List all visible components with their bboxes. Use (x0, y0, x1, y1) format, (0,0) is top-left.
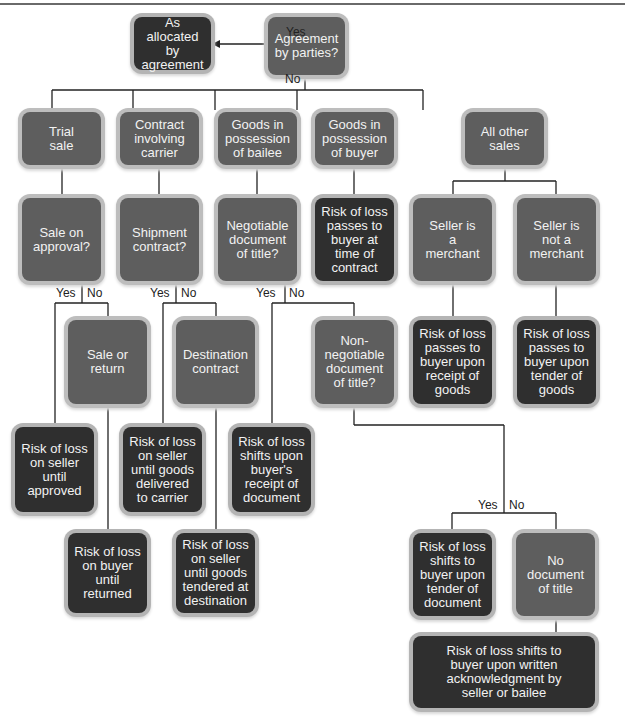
node-sale-on-approval: Sale on approval? (22, 198, 101, 281)
label-no-agreement: No (285, 72, 300, 86)
node-receipt-of-goods: Risk of loss passes to buyer upon receip… (413, 320, 492, 404)
label-no: No (509, 498, 524, 512)
node-seller-not-merchant: Seller is not a merchant (517, 198, 596, 281)
node-as-allocated: As allocated by agreement (134, 17, 211, 70)
label-yes: Yes (150, 286, 170, 300)
node-seller-until-carrier: Risk of loss on seller until goods deliv… (123, 427, 202, 512)
label-yes: Yes (478, 498, 498, 512)
node-seller-until-approved: Risk of loss on seller until approved (15, 427, 94, 512)
node-tender-of-goods: Risk of loss passes to buyer upon tender… (517, 320, 596, 404)
node-written-acknowledgment: Risk of loss shifts to buyer upon writte… (413, 636, 595, 708)
node-negotiable-document: Negotiable document of title? (218, 198, 297, 281)
label-no: No (289, 286, 304, 300)
node-goods-bailee: Goods in possession of bailee (218, 112, 297, 165)
node-buyer-until-returned: Risk of loss on buyer until returned (68, 533, 147, 613)
node-destination-contract: Destination contract (176, 320, 255, 404)
label-yes-agreement: Yes (286, 25, 306, 39)
node-seller-merchant: Seller is a merchant (413, 198, 492, 281)
label-no: No (87, 286, 102, 300)
node-sale-or-return: Sale or return (68, 320, 147, 404)
label-no: No (181, 286, 196, 300)
node-agreement-by-parties: Agreement by parties? (268, 17, 345, 75)
node-buyer-time-of-contract: Risk of loss passes to buyer at time of … (315, 198, 394, 281)
node-goods-buyer: Goods in possession of buyer (315, 112, 394, 165)
label-yes: Yes (256, 286, 276, 300)
node-all-other-sales: All other sales (465, 112, 544, 165)
label-yes: Yes (56, 286, 76, 300)
node-tender-of-document: Risk of loss shifts to buyer upon tender… (413, 533, 492, 616)
node-buyer-receipt-document: Risk of loss shifts upon buyer's receipt… (232, 427, 311, 512)
node-contract-carrier: Contract involving carrier (120, 112, 199, 165)
node-seller-until-destination: Risk of loss on seller until goods tende… (176, 533, 255, 613)
node-trial-sale: Trial sale (22, 112, 101, 165)
node-no-document: No document of title (516, 533, 595, 616)
node-non-negotiable: Non- negotiable document of title? (315, 320, 394, 404)
node-shipment-contract: Shipment contract? (120, 198, 199, 281)
